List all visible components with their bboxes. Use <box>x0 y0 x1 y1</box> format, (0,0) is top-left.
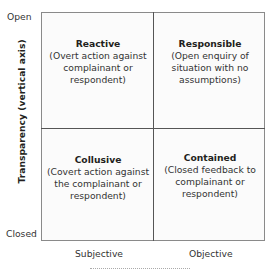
quadrant-description: (Covert action against the complainant o… <box>47 166 149 201</box>
quadrant-reactive: Reactive (Overt action against complaina… <box>44 38 152 86</box>
y-axis-top-label: Open <box>7 11 32 22</box>
quadrant-responsible: Responsible (Open enquiry of situation w… <box>156 38 264 86</box>
quadrant-title: Collusive <box>44 154 152 166</box>
x-axis-left-label: Subjective <box>75 248 123 259</box>
quadrant-description: (Overt action against complainant or res… <box>49 50 146 85</box>
y-axis-title: Transparency (vertical axis) <box>16 68 27 184</box>
x-axis-right-label: Objective <box>189 248 233 259</box>
quadrant-contained: Contained (Closed feedback to complainan… <box>156 152 264 200</box>
quadrant-title: Responsible <box>156 38 264 50</box>
vertical-divider <box>153 12 154 241</box>
quadrant-description: (Open enquiry of situation with no assum… <box>171 50 249 85</box>
quadrant-description: (Closed feedback to complainant or respo… <box>164 164 256 199</box>
quadrant-title: Contained <box>156 152 264 164</box>
quadrant-collusive: Collusive (Covert action against the com… <box>44 154 152 202</box>
y-axis-bottom-label: Closed <box>6 228 37 239</box>
quadrant-title: Reactive <box>44 38 152 50</box>
x-axis-title-clipped <box>90 265 190 269</box>
horizontal-divider <box>41 128 265 129</box>
